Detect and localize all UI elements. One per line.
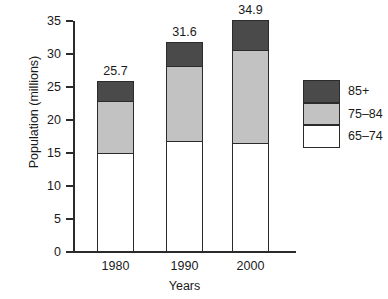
x-axis-tick-label: 1980 <box>86 259 146 273</box>
y-axis-tick-label: 35 <box>17 15 61 28</box>
legend-item[interactable]: 85+ <box>303 80 387 103</box>
bar-total-label: 31.6 <box>172 26 196 39</box>
legend: 85+75–8465–74 <box>303 80 387 148</box>
bar-group-1990[interactable]: 31.6 <box>166 43 203 252</box>
legend-label: 65–74 <box>348 130 383 143</box>
y-axis-tick <box>66 152 73 154</box>
y-axis-tick <box>66 185 73 187</box>
bar-group-1980[interactable]: 25.7 <box>97 82 134 252</box>
x-axis-title: Years <box>73 279 296 293</box>
legend-item[interactable]: 65–74 <box>303 125 387 148</box>
bar-group-2000[interactable]: 34.9 <box>232 22 269 252</box>
y-axis-tick-label: 5 <box>17 213 61 226</box>
bar-segment[interactable] <box>232 143 269 252</box>
stacked-bar-chart: 05101520253035 Population (millions) 25.… <box>0 0 388 299</box>
y-axis-tick <box>66 86 73 88</box>
bar-segment[interactable] <box>97 100 134 154</box>
y-axis-tick <box>66 20 73 22</box>
x-axis-line <box>73 251 296 253</box>
y-axis-tick <box>66 218 73 220</box>
bar-segment[interactable] <box>166 66 203 142</box>
y-axis-tick <box>66 53 73 55</box>
bar-segment[interactable] <box>232 50 269 144</box>
y-axis-tick-label: 0 <box>17 246 61 259</box>
y-axis-title: Population (millions) <box>27 32 41 192</box>
legend-swatch <box>303 125 340 148</box>
legend-label: 85+ <box>348 85 369 98</box>
y-axis-tick <box>66 251 73 253</box>
legend-swatch <box>303 103 340 126</box>
bar-segment[interactable] <box>166 140 203 252</box>
legend-swatch <box>303 80 340 103</box>
bar-segment[interactable] <box>232 20 269 51</box>
x-axis-tick-label: 1990 <box>155 259 215 273</box>
bar-segment[interactable] <box>97 81 134 101</box>
legend-item[interactable]: 75–84 <box>303 103 387 126</box>
bar-segment[interactable] <box>166 42 203 67</box>
legend-label: 75–84 <box>348 108 383 121</box>
bar-total-label: 34.9 <box>238 4 262 17</box>
plot-area: 25.731.634.9 <box>75 21 296 252</box>
y-axis-tick <box>66 119 73 121</box>
bar-segment[interactable] <box>97 153 134 252</box>
bar-total-label: 25.7 <box>103 65 127 78</box>
x-axis-tick-label: 2000 <box>221 259 281 273</box>
